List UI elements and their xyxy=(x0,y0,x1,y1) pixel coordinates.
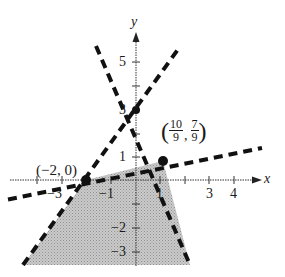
fraction-x: 109 xyxy=(169,118,183,143)
fraction-y-denominator: 9 xyxy=(192,131,198,143)
vertex-label-right: (109,79) xyxy=(161,118,207,143)
inequality-graph xyxy=(0,0,285,277)
vertex-point-right xyxy=(158,156,168,166)
x-tick-label-4: 4 xyxy=(230,187,237,201)
y-tick-label-neg2: −2 xyxy=(111,221,126,235)
fraction-y: 79 xyxy=(191,118,199,143)
vertex-label-left: (−2, 0) xyxy=(36,163,77,178)
y-tick-label-neg3: −3 xyxy=(111,245,126,259)
fraction-x-denominator: 9 xyxy=(173,131,179,143)
x-tick-label-3: 3 xyxy=(206,187,213,201)
open-paren: ( xyxy=(161,118,169,144)
vertex-point-left xyxy=(81,175,91,185)
y-tick-label-3: 3 xyxy=(119,103,126,117)
x-tick-label-neg1: −1 xyxy=(99,187,114,201)
x-axis-label: x xyxy=(264,172,270,186)
close-paren: ) xyxy=(199,118,207,144)
y-axis-label: y xyxy=(131,15,137,29)
x-tick-label-neg3: −3 xyxy=(47,187,62,201)
y-tick-label-5: 5 xyxy=(119,55,126,69)
vertex-point-top xyxy=(132,106,140,114)
x-tick-label-1: 1 xyxy=(156,187,163,201)
comma: , xyxy=(184,128,188,143)
y-tick-label-1: 1 xyxy=(119,150,126,164)
